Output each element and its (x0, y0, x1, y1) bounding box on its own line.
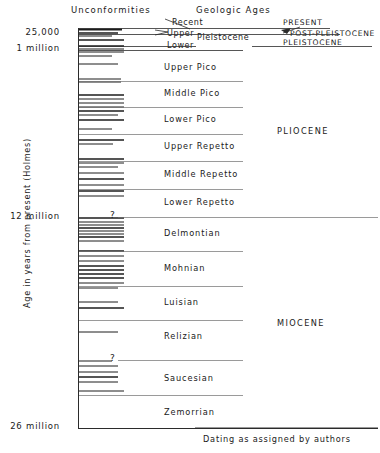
geologic-timescale-chart: Unconformities Geologic Ages Age in year… (0, 0, 380, 453)
chart-linework (0, 0, 380, 453)
unconformity-hatch-group (79, 30, 124, 392)
leader-recent (165, 19, 190, 29)
